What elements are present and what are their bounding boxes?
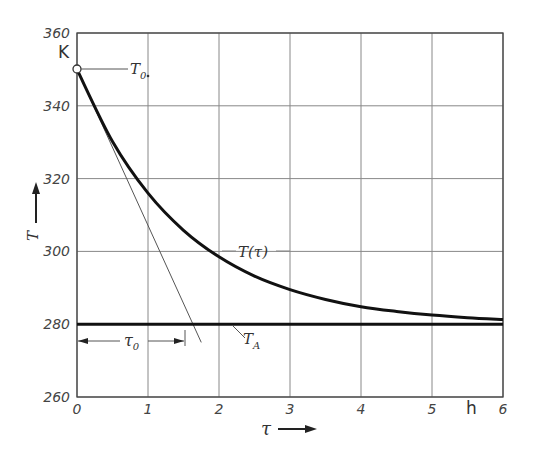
y-tick-labels: 260280300320340360 xyxy=(43,25,70,405)
x-tick-label: 1 xyxy=(144,401,153,417)
x-tick-label: 3 xyxy=(286,401,295,417)
arrow-up-icon xyxy=(32,182,40,194)
t0-annotation: T0 xyxy=(81,60,149,81)
y-tick-label: 280 xyxy=(43,316,70,332)
svg-text:τ0: τ0 xyxy=(124,331,140,352)
y-tick-label: 320 xyxy=(43,171,70,187)
start-point-marker xyxy=(73,65,81,73)
y-tick-label: 360 xyxy=(43,25,70,41)
time-constant-dimension: τ0 xyxy=(78,330,185,352)
y-unit-label: K xyxy=(58,42,70,62)
arrow-left-icon xyxy=(78,338,88,344)
x-axis-label: τ xyxy=(261,418,317,439)
ta-annotation: TA xyxy=(233,326,260,351)
y-tick-label: 300 xyxy=(43,243,70,259)
svg-text:T0: T0 xyxy=(130,60,147,81)
svg-text:T(τ): T(τ) xyxy=(238,243,268,261)
y-tick-label: 260 xyxy=(43,389,70,405)
curve-annotation: T(τ) xyxy=(222,243,290,261)
arrow-right-icon xyxy=(174,338,184,344)
y-tick-label: 340 xyxy=(43,98,70,114)
x-tick-label: 4 xyxy=(357,401,366,417)
x-unit-label: h xyxy=(466,398,477,418)
cooling-curve-chart: 260280300320340360 0123456 K h T τ T0 T(… xyxy=(0,0,533,456)
x-tick-label: 2 xyxy=(215,401,224,417)
x-tick-label: 5 xyxy=(428,401,437,417)
arrow-right-icon xyxy=(305,425,317,433)
x-tick-label: 0 xyxy=(73,401,82,417)
y-axis-title: T xyxy=(24,230,42,241)
x-tick-labels: 0123456 xyxy=(73,401,508,417)
x-axis-title: τ xyxy=(261,418,272,439)
svg-text:TA: TA xyxy=(243,330,260,351)
y-axis-label: T xyxy=(24,182,42,241)
x-tick-label: 6 xyxy=(499,401,508,417)
grid xyxy=(77,33,503,397)
